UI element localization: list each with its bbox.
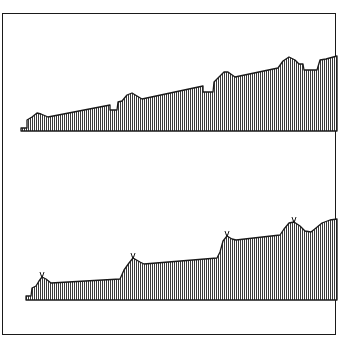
- upper-profile: [21, 56, 337, 131]
- terrain-profiles-diagram: [0, 0, 343, 339]
- terrain-area: [26, 219, 337, 300]
- lower-profile: [26, 217, 337, 300]
- terrain-area: [21, 56, 337, 131]
